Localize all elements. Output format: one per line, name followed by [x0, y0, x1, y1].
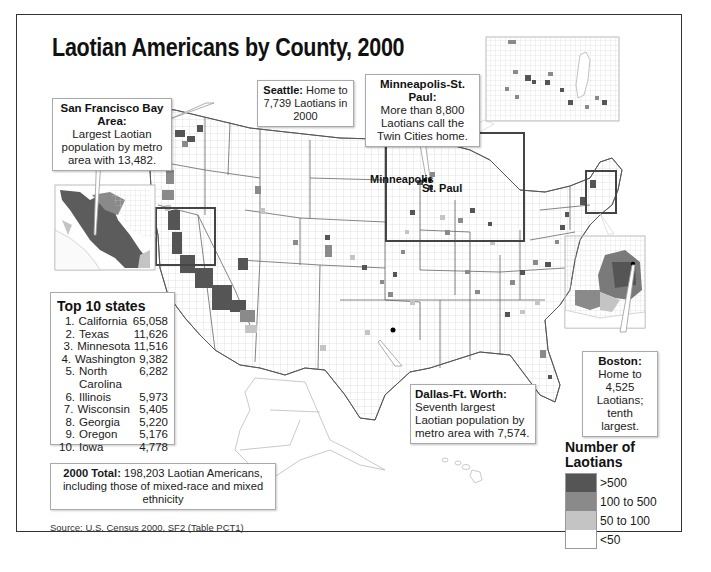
table-row: 1.California65,058: [57, 315, 168, 328]
legend-item-under-50: <50: [565, 530, 657, 549]
callout-dallas: Dallas-Ft. Worth: Seventh largest Laotia…: [410, 384, 536, 444]
legend-swatch: [565, 511, 597, 530]
table-row: 10.Iowa4,778: [57, 441, 168, 454]
table-row: 9.Oregon5,176: [57, 428, 168, 441]
legend-swatch: [565, 492, 597, 511]
top-10-heading: Top 10 states: [57, 298, 168, 314]
total-heading: 2000 Total:: [63, 467, 121, 479]
callout-sf-body: Largest Laotian population by metro area…: [61, 128, 162, 166]
legend: Number of Laotians >500 100 to 500 50 to…: [565, 440, 657, 549]
callout-boston-heading: Boston:: [598, 355, 641, 367]
legend-item-50-100: 50 to 100: [565, 511, 657, 530]
callout-minneapolis-heading: Minneapolis-St. Paul:: [380, 78, 465, 103]
table-row: 5.North Carolina6,282: [57, 365, 168, 390]
legend-swatch: [565, 473, 597, 492]
upper-midwest-inset: [486, 37, 619, 121]
source-note: Source: U.S. Census 2000, SF2 (Table PCT…: [50, 522, 244, 533]
table-row: 6.Illinois5,973: [57, 391, 168, 404]
legend-item-over-500: >500: [565, 473, 657, 492]
label-st-paul: St. Paul: [422, 182, 462, 194]
legend-title: Number of Laotians: [565, 440, 657, 470]
callout-dallas-body: Seventh largest Laotian population by me…: [415, 401, 529, 439]
legend-swatch: [565, 530, 597, 549]
dallas-dot: [391, 328, 396, 333]
total-box: 2000 Total: 198,203 Laotian Americans, i…: [50, 463, 276, 510]
callout-minneapolis: Minneapolis-St. Paul: More than 8,800 La…: [365, 74, 480, 147]
top-10-states-table: Top 10 states 1.California65,058 2.Texas…: [50, 292, 175, 445]
callout-boston-body: Home to 4,525 Laotians; tenth largest.: [597, 368, 644, 432]
hawaii: [442, 458, 482, 483]
callout-dallas-heading: Dallas-Ft. Worth:: [415, 388, 507, 400]
table-row: 3.Minnesota11,516: [57, 340, 168, 353]
callout-seattle-heading: Seattle:: [263, 84, 303, 96]
table-row: 8.Georgia5,220: [57, 416, 168, 429]
callout-minneapolis-body: More than 8,800 Laotians call the Twin C…: [377, 104, 468, 142]
legend-item-100-500: 100 to 500: [565, 492, 657, 511]
callout-san-francisco: San Francisco Bay Area: Largest Laotian …: [52, 98, 172, 171]
table-row: 2.Texas11,626: [57, 328, 168, 341]
callout-boston: Boston: Home to 4,525 Laotians; tenth la…: [582, 351, 658, 437]
table-row: 7.Wisconsin5,405: [57, 403, 168, 416]
bay-area-inset: [55, 185, 155, 270]
callout-sf-heading: San Francisco Bay Area:: [61, 102, 164, 127]
callout-seattle: Seattle: Home to 7,739 Laotians in 2000: [257, 80, 354, 127]
table-row: 4.Washington9,382: [57, 353, 168, 366]
